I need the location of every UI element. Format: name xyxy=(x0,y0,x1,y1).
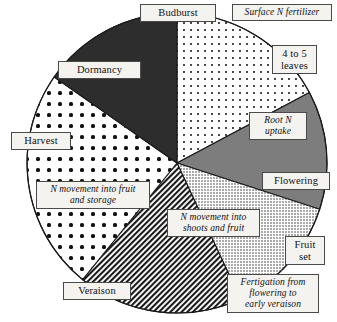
process-label-n-movement-shoots-fruit: N movement into shoots and fruit xyxy=(167,209,260,237)
stage-label-fruit-set: Fruit set xyxy=(285,236,325,265)
process-label-n-movement-fruit-storage: N movement into fruit and storage xyxy=(36,181,150,209)
process-label-surface-n-fertilizer: Surface N fertilizer xyxy=(232,4,332,21)
stage-label-veraison: Veraison xyxy=(63,282,131,300)
stage-label-4-to-5-leaves: 4 to 5 leaves xyxy=(272,45,317,74)
process-label-root-n-uptake: Root N uptake xyxy=(249,112,307,140)
stage-label-harvest: Harvest xyxy=(11,132,71,150)
stage-label-flowering: Flowering xyxy=(262,172,330,190)
stage-label-budburst: Budburst xyxy=(140,4,216,22)
stage-label-dormancy: Dormancy xyxy=(58,61,141,79)
process-label-fertigation: Fertigation from flowering to early vera… xyxy=(227,274,319,313)
pie-diagram-stage: Budburst 4 to 5 leaves Flowering Fruit s… xyxy=(0,0,337,322)
